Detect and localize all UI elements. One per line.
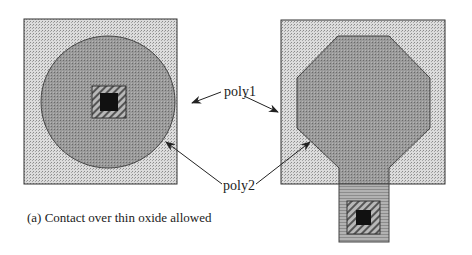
- poly2-label: poly2: [223, 178, 255, 193]
- poly1-label: poly1: [224, 84, 256, 99]
- right-contact-core: [356, 210, 371, 225]
- right-structure: [281, 20, 445, 242]
- poly1-arrow-left: [192, 92, 221, 103]
- left-structure: [24, 19, 177, 184]
- left-contact-core: [100, 93, 118, 111]
- contact-layout-diagram: poly1 poly2 (a) Contact over thin oxide …: [0, 0, 472, 255]
- figure-caption: (a) Contact over thin oxide allowed: [27, 210, 212, 225]
- poly1-arrow-right: [244, 96, 278, 112]
